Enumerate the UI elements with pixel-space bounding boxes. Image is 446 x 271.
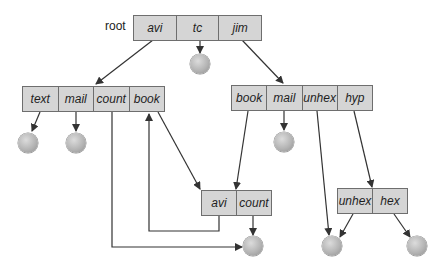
directory-graph-diagram: root avi tc jim text mail count book boo… <box>0 0 446 271</box>
entry-jim: jim <box>219 16 261 40</box>
hyp-directory: unhex hex <box>337 188 408 214</box>
entry-book: book <box>130 87 165 111</box>
edge-root-avi <box>96 40 153 84</box>
entry-book: book <box>232 86 267 110</box>
entry-unhex: unhex <box>338 189 373 213</box>
entry-text: text <box>23 87 59 111</box>
entry-avi: avi <box>202 191 237 215</box>
entry-mail: mail <box>267 86 302 110</box>
entry-hyp: hyp <box>338 86 372 110</box>
shared-book-directory: avi count <box>201 190 272 216</box>
file-node-shared-count <box>243 236 263 256</box>
edge-avi-count <box>112 112 242 247</box>
edge-hyp-unhex <box>340 214 353 237</box>
file-node-tc <box>190 54 210 74</box>
root-directory: avi tc jim <box>133 15 262 41</box>
entry-count: count <box>94 87 130 111</box>
file-node-avi-text <box>18 133 38 153</box>
entry-count: count <box>237 191 271 215</box>
entry-tc: tc <box>177 16 220 40</box>
edge-jim-unhex <box>317 111 329 235</box>
avi-directory: text mail count book <box>22 86 165 112</box>
root-label: root <box>105 19 126 33</box>
edge-avi-book <box>158 112 200 189</box>
edge-avi-text <box>32 112 40 131</box>
edge-hyp-hex <box>394 214 410 237</box>
entry-unhex: unhex <box>303 86 338 110</box>
entry-avi: avi <box>134 16 177 40</box>
file-node-jim-mail <box>274 132 294 152</box>
file-node-hex <box>407 236 427 256</box>
jim-directory: book mail unhex hyp <box>231 85 373 111</box>
edge-jim-hyp <box>354 111 372 187</box>
edge-jim-book <box>236 111 248 189</box>
file-node-shared-unhex <box>322 236 342 256</box>
entry-hex: hex <box>373 189 407 213</box>
edge-root-jim <box>242 40 283 83</box>
entry-mail: mail <box>59 87 95 111</box>
file-node-avi-mail <box>66 133 86 153</box>
